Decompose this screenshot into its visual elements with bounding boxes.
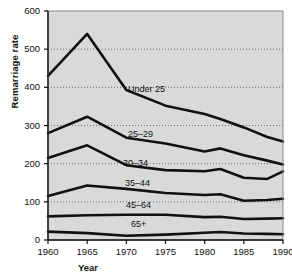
series-label-30-34: 30–34: [123, 158, 148, 168]
chart-figure: Remarriage rate Year 0100200300400500600…: [0, 0, 292, 278]
series-label-65+: 65+: [131, 219, 146, 229]
series-label-25-29: 25–29: [128, 129, 153, 139]
series-label-45-64: 45–64: [126, 200, 151, 210]
series-label-35-44: 35–44: [125, 178, 150, 188]
series-label-Under 25: Under 25: [128, 84, 165, 94]
plot-canvas: [0, 0, 292, 278]
